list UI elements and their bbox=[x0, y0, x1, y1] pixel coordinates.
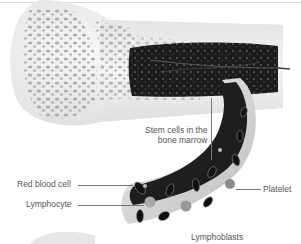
label-stem-cells: Stem cells in the bone marrow bbox=[145, 125, 207, 145]
lymphoblast-cell bbox=[181, 201, 192, 212]
lymphocyte-leader bbox=[78, 205, 144, 206]
stem-cells-leader bbox=[211, 98, 212, 160]
lower-bone-edge bbox=[30, 232, 95, 244]
bone-marrow bbox=[129, 42, 290, 96]
bone-marrow-diagram: Stem cells in the bone marrow Red blood … bbox=[0, 0, 301, 244]
label-red-blood-cell: Red blood cell bbox=[17, 179, 71, 189]
label-stem-cells-line1: Stem cells in the bbox=[145, 125, 207, 135]
label-lymphoblasts: Lymphoblasts bbox=[191, 232, 243, 242]
platelet-leader bbox=[236, 189, 261, 190]
label-stem-cells-line2: bone marrow bbox=[145, 135, 207, 145]
label-lymphocyte: Lymphocyte bbox=[26, 199, 72, 209]
platelet-cell bbox=[225, 179, 235, 189]
lymphocyte-cell bbox=[145, 197, 156, 208]
red-blood-cell-leader bbox=[78, 185, 133, 186]
label-platelet: Platelet bbox=[263, 184, 291, 194]
